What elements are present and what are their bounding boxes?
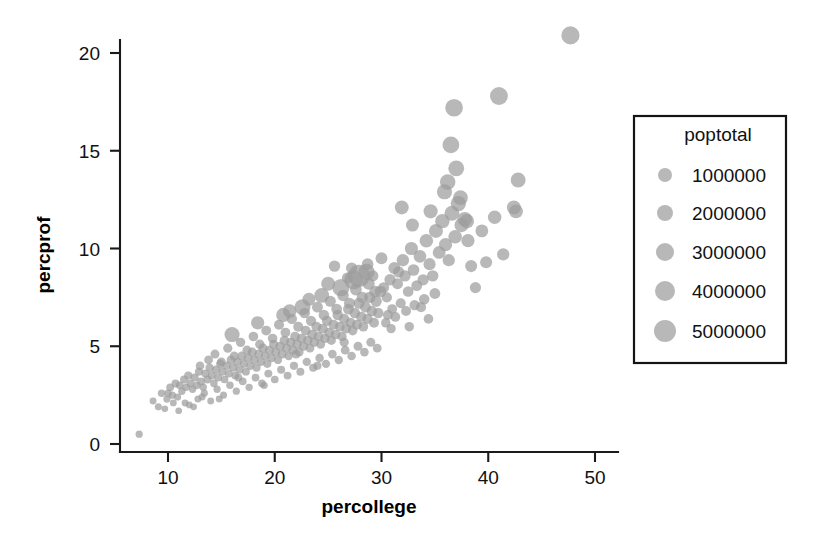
data-point bbox=[245, 384, 252, 391]
data-point bbox=[175, 407, 182, 414]
scatter-plot-canvas: 05101520 1020304050 percollege percprof … bbox=[0, 0, 826, 546]
x-tick-label: 10 bbox=[157, 467, 178, 488]
data-point bbox=[344, 298, 355, 309]
data-point bbox=[213, 386, 220, 393]
data-point bbox=[335, 356, 343, 364]
data-point bbox=[397, 254, 409, 266]
chart-figure: 05101520 1020304050 percollege percprof … bbox=[0, 0, 826, 546]
data-point bbox=[386, 324, 395, 333]
legend-label: 5000000 bbox=[692, 321, 766, 342]
data-point bbox=[283, 304, 297, 318]
data-point bbox=[150, 398, 157, 405]
legend-bubble bbox=[657, 205, 673, 221]
data-point bbox=[158, 389, 166, 397]
data-point bbox=[235, 374, 243, 382]
data-point bbox=[460, 214, 474, 228]
y-tick-group: 05101520 bbox=[79, 43, 120, 455]
legend-label: 3000000 bbox=[692, 242, 766, 263]
data-point bbox=[362, 258, 374, 270]
data-point bbox=[376, 252, 388, 264]
size-legend: poptotal 1000000200000030000004000000500… bbox=[634, 116, 786, 363]
legend-bubble bbox=[655, 281, 675, 301]
data-point bbox=[509, 204, 523, 218]
data-point bbox=[406, 219, 419, 232]
data-point bbox=[277, 366, 285, 374]
data-point bbox=[395, 200, 409, 214]
data-point bbox=[281, 328, 291, 338]
data-point bbox=[306, 316, 316, 326]
data-point bbox=[367, 270, 378, 281]
data-point bbox=[414, 250, 427, 263]
data-point bbox=[226, 382, 233, 389]
data-point bbox=[182, 399, 189, 406]
data-point bbox=[416, 302, 426, 312]
data-point bbox=[561, 26, 579, 44]
data-point bbox=[341, 346, 350, 355]
data-point bbox=[424, 204, 438, 218]
data-point bbox=[290, 362, 298, 370]
x-tick-label: 30 bbox=[371, 467, 392, 488]
x-tick-label: 50 bbox=[584, 467, 605, 488]
data-point bbox=[373, 308, 383, 318]
data-point bbox=[315, 354, 324, 363]
legend-bubble bbox=[658, 168, 672, 182]
data-point bbox=[216, 396, 223, 403]
data-point bbox=[480, 256, 492, 268]
data-point bbox=[342, 272, 353, 283]
legend-label: 4000000 bbox=[692, 281, 766, 302]
data-point bbox=[207, 398, 214, 405]
legend-bubble bbox=[654, 320, 676, 342]
data-point bbox=[261, 326, 271, 336]
data-point bbox=[405, 322, 414, 331]
bubble-layer bbox=[136, 26, 580, 438]
data-point bbox=[424, 314, 434, 324]
y-axis-title: percprof bbox=[33, 216, 54, 294]
data-point bbox=[321, 277, 335, 291]
x-axis-title: percollege bbox=[321, 496, 416, 517]
data-point bbox=[401, 306, 411, 316]
data-point bbox=[284, 372, 292, 380]
legend-bubble bbox=[656, 243, 674, 261]
x-tick-group: 1020304050 bbox=[157, 452, 605, 488]
data-point bbox=[322, 360, 330, 368]
data-point bbox=[303, 358, 311, 366]
data-point bbox=[427, 270, 438, 281]
data-point bbox=[357, 292, 368, 303]
data-point bbox=[331, 304, 342, 315]
data-point bbox=[470, 282, 481, 293]
data-point bbox=[371, 296, 382, 307]
data-point bbox=[490, 87, 508, 105]
x-tick-label: 40 bbox=[478, 467, 499, 488]
x-tick-label: 20 bbox=[264, 467, 285, 488]
data-point bbox=[346, 262, 357, 273]
data-point bbox=[293, 322, 303, 332]
legend-title: poptotal bbox=[684, 124, 752, 145]
y-tick-label: 20 bbox=[79, 43, 100, 64]
data-point bbox=[461, 234, 474, 247]
data-point bbox=[292, 350, 301, 359]
data-point bbox=[251, 316, 264, 329]
data-point bbox=[382, 292, 392, 302]
y-tick-label: 5 bbox=[89, 336, 100, 357]
data-point bbox=[383, 310, 393, 320]
data-point bbox=[448, 160, 464, 176]
data-point bbox=[424, 258, 436, 270]
data-point bbox=[488, 210, 501, 223]
data-point bbox=[217, 358, 226, 367]
data-point bbox=[252, 374, 260, 382]
data-point bbox=[443, 254, 455, 266]
y-tick-label: 15 bbox=[79, 141, 100, 162]
data-point bbox=[360, 348, 369, 357]
data-point bbox=[440, 174, 456, 190]
data-point bbox=[302, 293, 315, 306]
data-point bbox=[170, 400, 177, 407]
data-point bbox=[224, 327, 239, 342]
y-tick-label: 10 bbox=[79, 239, 100, 260]
data-point bbox=[347, 352, 356, 361]
data-point bbox=[230, 352, 239, 361]
data-point bbox=[445, 99, 463, 117]
data-point bbox=[497, 248, 509, 260]
data-point bbox=[448, 230, 462, 244]
data-point bbox=[329, 260, 340, 271]
data-point bbox=[174, 394, 181, 401]
